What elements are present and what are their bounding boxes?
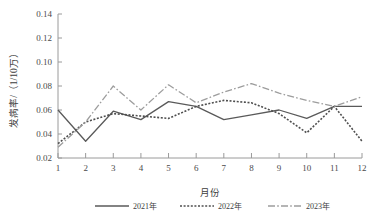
series-line-2021年 (58, 102, 362, 142)
chart-legend: 2021年2022年2023年 (95, 201, 330, 211)
y-axis-title: 发病率/（1/10万） (8, 48, 19, 128)
y-tick-label: 0.14 (36, 9, 52, 19)
line-chart-figure: 0.020.040.060.080.100.120.14 12345678910… (0, 0, 374, 220)
x-axis-title: 月份 (200, 187, 220, 198)
y-tick-label: 0.02 (36, 153, 52, 163)
x-tick-label: 3 (111, 163, 116, 173)
y-tick-label: 0.12 (36, 33, 52, 43)
x-tick-label: 7 (222, 163, 227, 173)
legend-label-2021年: 2021年 (133, 201, 157, 211)
x-tick-label: 12 (358, 163, 367, 173)
x-tick-label: 10 (302, 163, 312, 173)
y-axis-group: 0.020.040.060.080.100.120.14 (36, 9, 62, 163)
y-tick-label: 0.10 (36, 57, 52, 67)
x-tick-label: 1 (56, 163, 61, 173)
y-tick-label: 0.08 (36, 81, 52, 91)
x-tick-label: 9 (277, 163, 282, 173)
series-lines-group (58, 84, 362, 148)
x-tick-label: 11 (330, 163, 339, 173)
legend-label-2022年: 2022年 (218, 201, 242, 211)
y-axis-tick-labels: 0.020.040.060.080.100.120.14 (36, 9, 52, 163)
y-tick-label: 0.04 (36, 129, 52, 139)
y-tick-label: 0.06 (36, 105, 52, 115)
x-axis-group: 123456789101112 (56, 153, 367, 173)
x-tick-label: 2 (83, 163, 88, 173)
series-line-2023年 (58, 84, 362, 148)
y-axis-ticks (58, 14, 62, 158)
x-tick-label: 4 (139, 163, 144, 173)
chart-canvas: 0.020.040.060.080.100.120.14 12345678910… (0, 0, 374, 220)
legend-label-2023年: 2023年 (306, 201, 330, 211)
x-tick-label: 5 (166, 163, 171, 173)
x-axis-ticks (58, 153, 362, 158)
x-tick-label: 6 (194, 163, 199, 173)
x-axis-tick-labels: 123456789101112 (56, 163, 367, 173)
x-tick-label: 8 (249, 163, 254, 173)
